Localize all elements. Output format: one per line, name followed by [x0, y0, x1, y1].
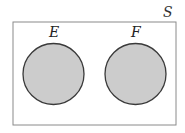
set-f-label: F	[130, 24, 142, 40]
sample-space-label: S	[163, 4, 173, 20]
set-f-circle	[105, 44, 166, 105]
set-e-label: E	[48, 24, 59, 40]
venn-diagram: S E F	[0, 0, 185, 133]
set-e-circle	[23, 44, 84, 105]
